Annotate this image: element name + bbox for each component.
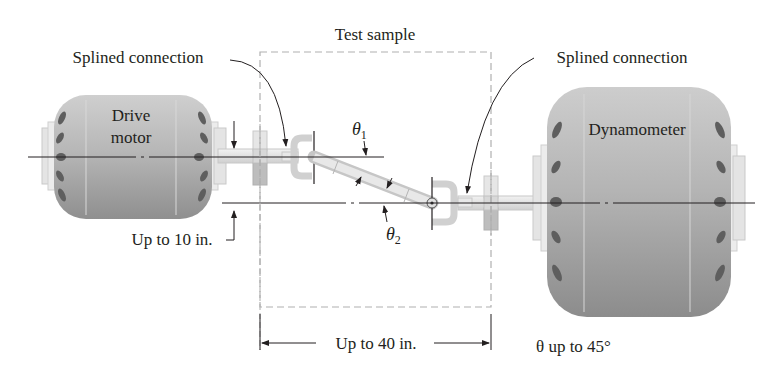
theta-max-note: θ up to 45° — [536, 337, 611, 356]
splined-connection-right-arrow — [467, 58, 534, 193]
theta2-symbol: θ — [386, 224, 395, 244]
svg-text:θ2: θ2 — [386, 224, 401, 247]
dynamometer-label: Dynamometer — [588, 120, 686, 139]
theta1-symbol: θ — [352, 119, 361, 139]
theta1-subscript: 1 — [361, 128, 367, 142]
offset-label: Up to 10 in. — [131, 230, 212, 249]
drive-shaft-left — [218, 131, 298, 185]
theta2-annotation: θ2 — [384, 206, 401, 247]
svg-text:θ1: θ1 — [352, 119, 367, 142]
u-joint-test-rig-diagram: Drive motor — [0, 0, 776, 376]
splined-connection-left-label: Splined connection — [73, 48, 204, 67]
length-label: Up to 40 in. — [335, 334, 416, 353]
splined-connection-right-label: Splined connection — [557, 48, 688, 67]
offset-dimension — [226, 121, 234, 240]
theta2-subscript: 2 — [395, 233, 401, 247]
drive-motor-label-line1: Drive — [112, 106, 151, 125]
drive-motor-label-line2: motor — [111, 128, 152, 147]
test-sample-label: Test sample — [335, 25, 415, 44]
intermediate-shaft — [314, 157, 432, 203]
dynamometer: Dynamometer — [533, 87, 745, 317]
theta1-annotation: θ1 — [352, 119, 367, 155]
